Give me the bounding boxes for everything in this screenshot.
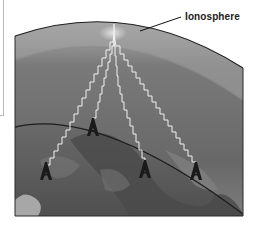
diagram-frame [0,0,250,229]
ionosphere-diagram [0,0,257,229]
ionosphere-label: Ionosphere [185,11,240,22]
ionosphere-leader-line [140,17,181,31]
